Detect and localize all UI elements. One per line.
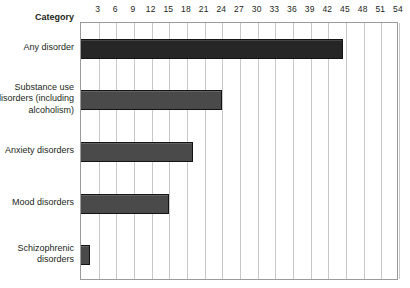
gridline-27	[240, 23, 241, 279]
x-tick-label-51: 51	[375, 4, 385, 14]
x-tick-label-42: 42	[322, 4, 332, 14]
gridline-48	[364, 23, 365, 279]
gridline-36	[293, 23, 294, 279]
category-label-4: Schizophrenic disorders	[0, 243, 74, 266]
x-tick-label-15: 15	[163, 4, 173, 14]
x-tick-label-36: 36	[287, 4, 297, 14]
gridline-54	[399, 23, 400, 279]
bar-3	[81, 194, 169, 214]
x-tick-label-18: 18	[181, 4, 191, 14]
bar-1	[81, 90, 222, 110]
x-tick-label-48: 48	[358, 4, 368, 14]
gridline-21	[205, 23, 206, 279]
x-tick-label-6: 6	[113, 4, 118, 14]
category-label-2: Anxiety disorders	[0, 145, 74, 157]
gridline-39	[311, 23, 312, 279]
gridline-30	[258, 23, 259, 279]
x-tick-label-3: 3	[95, 4, 100, 14]
bar-0	[81, 39, 343, 59]
category-label-3: Mood disorders	[0, 197, 74, 209]
x-tick-label-27: 27	[234, 4, 244, 14]
x-tick-label-12: 12	[146, 4, 156, 14]
bar-2	[81, 142, 193, 162]
gridline-24	[222, 23, 223, 279]
gridline-42	[328, 23, 329, 279]
x-tick-label-30: 30	[252, 4, 262, 14]
category-axis-title: Category	[35, 12, 74, 22]
x-tick-label-54: 54	[393, 4, 403, 14]
x-tick-label-39: 39	[305, 4, 315, 14]
gridline-45	[346, 23, 347, 279]
category-label-1: Substance use disorders (including alcoh…	[0, 82, 74, 117]
gridline-33	[275, 23, 276, 279]
category-label-0: Any disorder	[0, 42, 74, 54]
plot-area	[80, 22, 398, 280]
bar-chart: 369121518212427303336394245485154 Catego…	[0, 0, 410, 288]
gridline-51	[381, 23, 382, 279]
x-tick-label-45: 45	[340, 4, 350, 14]
x-tick-label-24: 24	[216, 4, 226, 14]
x-tick-label-9: 9	[131, 4, 136, 14]
x-tick-label-33: 33	[269, 4, 279, 14]
bar-4	[81, 245, 90, 265]
x-tick-label-21: 21	[199, 4, 209, 14]
